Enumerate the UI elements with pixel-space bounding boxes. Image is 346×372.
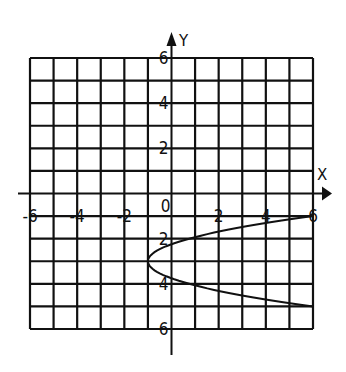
y-axis-label: Y	[178, 32, 189, 50]
x-tick-label: 2	[214, 206, 224, 226]
x-tick-label: 6	[308, 206, 318, 226]
y-tick-label: 6	[159, 48, 169, 68]
x-axis-arrow-icon	[322, 187, 332, 201]
x-tick-label: -6	[22, 206, 37, 226]
x-axis-label: X	[317, 166, 327, 184]
y-tick-label: 6	[159, 319, 169, 339]
x-tick-label: 4	[261, 206, 271, 226]
y-tick-label: 2	[159, 138, 169, 158]
y-axis-arrow-icon	[167, 32, 177, 46]
x-tick-label: -4	[70, 206, 85, 226]
y-tick-label: 2	[159, 229, 169, 249]
y-tick-label: 4	[159, 274, 169, 294]
x-tick-label: -2	[117, 206, 132, 226]
graph: -6-4-20246642246 X Y	[0, 0, 346, 372]
x-tick-label: 0	[161, 196, 171, 216]
y-tick-label: 4	[159, 93, 169, 113]
